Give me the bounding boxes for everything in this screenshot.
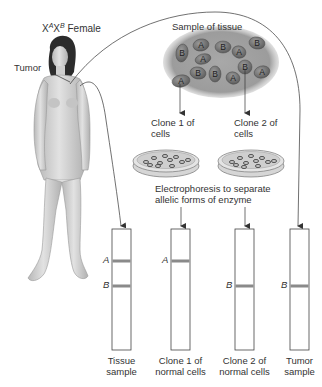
clone1-label: Clone 1 ofcells [151,117,194,139]
colony-dot [147,163,152,166]
colony-dot [248,154,253,157]
svg-text:A: A [230,73,236,83]
clone2-label: Clone 2 ofcells [234,117,277,139]
svg-text:B: B [254,38,260,48]
colony-dot [237,156,242,159]
svg-text:B: B [220,42,226,52]
electrophoresis-label: Electrophoresis to separateallelic forms… [155,183,271,205]
svg-text:A: A [259,67,265,77]
colony-dot [241,165,246,168]
colony-dot [233,163,238,166]
colony-dot [179,160,184,163]
band-b [291,285,309,288]
gel-lane-clone2 [235,229,254,350]
svg-text:B: B [212,69,218,79]
colony-dot [167,158,172,161]
band-letter-b: B [226,279,232,290]
colony-dot [155,164,160,167]
tissue-cell-b: B [209,66,221,82]
band-letter-b: B [103,279,109,290]
colony-dot [243,161,248,164]
gel-lane-clone1 [171,229,190,350]
colony-dot [229,160,234,163]
svg-text:B: B [195,68,201,78]
svg-text:B: B [179,48,185,58]
band-b [236,285,254,288]
colony-dot [259,156,264,159]
band-a [113,260,131,263]
svg-text:A: A [236,47,242,57]
band-a [172,260,190,263]
gel-lanes [112,229,309,350]
tissue-cell-b: B [215,41,231,53]
gel-lane-tissue [112,229,131,350]
colony-dot [173,155,178,158]
colony-dot [265,160,270,163]
colony-dot [185,158,190,161]
colony-dot [255,164,260,167]
sample-of-tissue-label: Sample of tissue [172,21,242,32]
band-letter-a: A [162,254,168,265]
band-letter-a: A [103,254,109,265]
gel-lane-tumor [290,229,309,350]
lane-label-tumor: Tumorsample [260,355,322,377]
colony-dot [271,159,276,162]
tumor-label: Tumor [14,62,41,73]
colony-dot [253,159,258,162]
colony-dot [143,160,148,163]
band-b [113,285,131,288]
band-letter-b: B [281,279,287,290]
petri-dish-clone1 [133,150,199,177]
svg-text:A: A [200,54,206,64]
genotype-title: XAXB Female [42,20,101,34]
colony-dot [151,156,156,159]
colony-dot [169,164,174,167]
svg-text:A: A [198,40,204,50]
svg-text:A: A [178,76,184,86]
colony-dot [162,154,167,157]
